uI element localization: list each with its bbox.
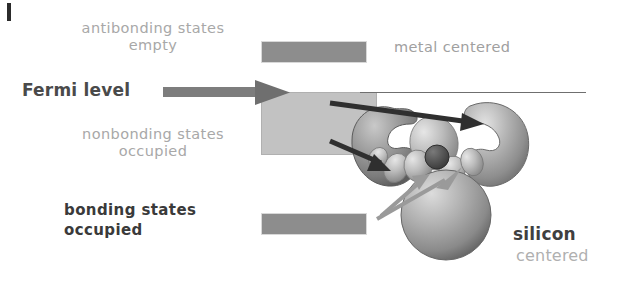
nonbonding-band (261, 92, 377, 155)
antibonding-band (261, 41, 367, 63)
silicon-sphere (401, 170, 491, 260)
antibonding-states-label: antibonding states empty (48, 20, 258, 54)
metal-centered-label: metal centered (394, 39, 510, 56)
figure-canvas: antibonding states empty nonbonding stat… (0, 0, 620, 282)
nonbonding-states-label: nonbonding states occupied (48, 126, 258, 160)
orbital-lobe-center-top (405, 112, 463, 175)
fermi-level-line (360, 92, 586, 93)
fermi-level-label: Fermi level (22, 80, 130, 100)
silicon-orbital-arrow (377, 167, 462, 219)
bonding-states-label: bonding states occupied (64, 200, 274, 241)
orbital-lobe-small-a (379, 150, 412, 187)
silicon-label: silicon (513, 224, 576, 244)
silicon-centered-label: centered (516, 247, 589, 266)
page-edge-mark (7, 3, 11, 21)
orbital-lobe-small-b (402, 148, 434, 184)
orbital-lobe-right (464, 103, 528, 187)
orbital-lobe-small-d (457, 145, 487, 178)
central-core-atom (425, 145, 449, 169)
orbital-lobe-small-c (436, 153, 469, 190)
bonding-band (261, 213, 367, 235)
